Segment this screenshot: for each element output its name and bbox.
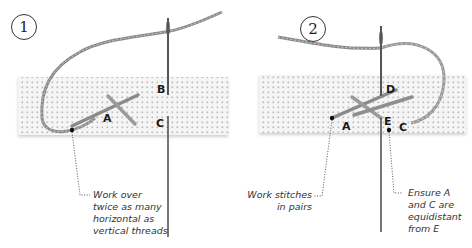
caption-line: and C are — [408, 199, 461, 211]
step-2-caption-left: Work stitches in pairs — [244, 189, 312, 213]
step-2-caption-right: Ensure A and C are equidistant from E — [408, 187, 461, 235]
caption-line: equidistant — [408, 211, 461, 223]
step-1-panel: 1 A B C Work over twice as many horizont… — [0, 0, 236, 248]
point-label-a: A — [103, 113, 112, 125]
caption-line: from E — [408, 223, 461, 235]
point-label-d: D — [386, 84, 395, 96]
point-label-b: B — [157, 84, 165, 96]
point-label-a: A — [342, 121, 351, 133]
caption-leader-line-right — [389, 132, 402, 193]
point-label-c: C — [399, 122, 407, 134]
caption-line: in pairs — [244, 201, 312, 213]
step-1-caption: Work over twice as many horizontal as ve… — [93, 189, 168, 237]
step-2-panel: 2 A C D E Work stitches in pairs Ensure … — [236, 0, 472, 248]
point-label-e: E — [384, 116, 392, 128]
caption-leader-line — [72, 132, 90, 195]
point-c-marker — [387, 128, 391, 132]
caption-line: vertical threads — [93, 225, 168, 237]
caption-line: horizontal as — [93, 213, 168, 225]
step-number-badge: 2 — [300, 16, 326, 42]
caption-line: twice as many — [93, 201, 168, 213]
point-a-marker — [70, 128, 74, 132]
point-a-marker — [330, 116, 334, 120]
caption-line: Work stitches — [244, 189, 312, 201]
step-number-badge: 1 — [11, 14, 37, 40]
fabric-swatch — [18, 77, 228, 135]
caption-line: Work over — [93, 189, 168, 201]
caption-line: Ensure A — [408, 187, 461, 199]
point-label-c: C — [156, 118, 164, 130]
